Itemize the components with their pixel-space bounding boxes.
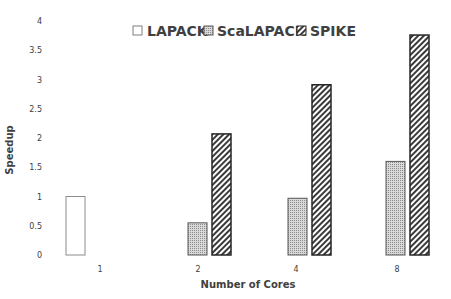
y-axis-title: Speedup xyxy=(4,125,15,174)
y-tick-label: 3.5 xyxy=(29,46,42,55)
legend-swatch-spike xyxy=(297,26,306,35)
bars xyxy=(66,35,429,255)
chart-canvas: 00.511.522.533.54 1248 Speedup Number of… xyxy=(0,0,451,299)
x-axis-ticks: 1248 xyxy=(97,265,399,274)
legend-swatch-lapack xyxy=(133,26,142,35)
y-tick-label: 1 xyxy=(37,193,42,202)
y-tick-label: 3 xyxy=(37,76,42,85)
bar-spike xyxy=(312,85,331,255)
speedup-bar-chart: 00.511.522.533.54 1248 Speedup Number of… xyxy=(0,0,451,299)
x-tick-label: 4 xyxy=(293,265,298,274)
x-tick-label: 2 xyxy=(195,265,200,274)
bar-lapack xyxy=(66,197,85,256)
bar-spike xyxy=(212,134,231,255)
bar-scalapack xyxy=(288,198,307,255)
legend-label-scalapack: ScaLAPACK xyxy=(217,23,307,39)
legend-swatch-scalapack xyxy=(204,26,213,35)
bar-spike xyxy=(410,35,429,255)
legend-item-lapack: LAPACK xyxy=(133,23,209,39)
legend-label-lapack: LAPACK xyxy=(147,23,209,39)
bar-scalapack xyxy=(386,161,405,255)
legend-label-spike: SPIKE xyxy=(310,23,356,39)
bar-scalapack xyxy=(188,223,207,255)
y-tick-label: 2.5 xyxy=(29,105,42,114)
y-tick-label: 2 xyxy=(37,134,42,143)
legend-item-spike: SPIKE xyxy=(297,23,356,39)
x-axis-title: Number of Cores xyxy=(201,279,296,290)
legend-item-scalapack: ScaLAPACK xyxy=(204,23,307,39)
y-axis-ticks: 00.511.522.533.54 xyxy=(29,17,42,260)
y-tick-label: 0.5 xyxy=(29,222,42,231)
legend: LAPACK ScaLAPACK SPIKE xyxy=(133,23,356,39)
y-tick-label: 0 xyxy=(37,251,42,260)
x-tick-label: 8 xyxy=(394,265,399,274)
y-tick-label: 1.5 xyxy=(29,163,42,172)
y-tick-label: 4 xyxy=(37,17,42,26)
x-tick-label: 1 xyxy=(97,265,102,274)
